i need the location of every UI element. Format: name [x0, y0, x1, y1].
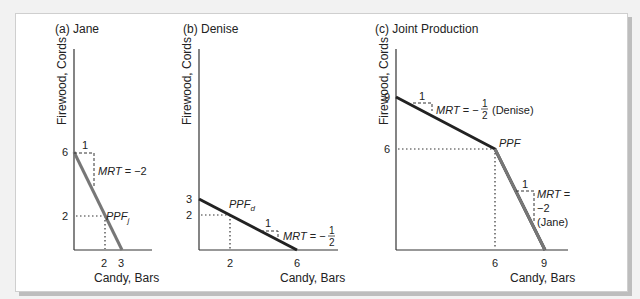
mrt-label: MRT = −2 — [98, 165, 147, 177]
x-axis-label: Candy, Bars — [510, 271, 575, 285]
y-tick: 3 — [186, 193, 192, 205]
panel-title: (c) Joint Production — [375, 22, 478, 36]
y-axis-label: Firewood, Cords — [180, 37, 194, 125]
ppf-line-denise — [396, 97, 545, 250]
panel-title: (b) Denise — [183, 22, 239, 36]
y-tick: 2 — [62, 210, 68, 222]
panel-joint: (c) Joint Production Firewood, Cords 1 M… — [375, 22, 575, 285]
mrt-numerator: 1 — [482, 98, 488, 109]
y-axis-label: Firewood, Cords — [55, 37, 69, 125]
panel-title: (a) Jane — [55, 22, 99, 36]
mrt-label-denise: MRT = − — [436, 104, 479, 116]
mrt-value-jane: −2 — [537, 202, 550, 214]
mrt-label-jane: MRT = — [537, 188, 570, 200]
y-tick: 6 — [384, 143, 390, 155]
mrt-numerator: 1 — [329, 225, 335, 236]
x-axis-label: Candy, Bars — [94, 271, 159, 285]
x-tick: 9 — [541, 257, 547, 269]
mrt-denominator: 2 — [482, 110, 488, 121]
mrt-denominator: 2 — [329, 237, 335, 248]
x-axis-label: Candy, Bars — [280, 271, 345, 285]
ppf-label: PPF — [499, 137, 522, 149]
x-tick: 6 — [492, 257, 498, 269]
run-label: 1 — [419, 90, 425, 102]
run-label: 1 — [265, 217, 271, 229]
y-tick: 9 — [384, 91, 390, 103]
y-tick: 2 — [186, 209, 192, 221]
x-tick: 3 — [118, 257, 124, 269]
x-tick: 2 — [227, 257, 233, 269]
denise-label: (Denise) — [492, 104, 534, 116]
ppf-label: PPFd — [229, 198, 255, 213]
x-tick: 2 — [101, 257, 107, 269]
x-tick: 6 — [294, 257, 300, 269]
panel-denise: (b) Denise Firewood, Cords 1 MRT = − 1 2… — [180, 22, 345, 285]
run-label: 1 — [522, 178, 528, 190]
run-label: 1 — [82, 139, 88, 151]
panel-jane: (a) Jane Firewood, Cords 1 MRT = −2 PPFj… — [55, 22, 159, 285]
ppf-figure: (a) Jane Firewood, Cords 1 MRT = −2 PPFj… — [0, 0, 640, 299]
y-axis-label: Firewood, Cords — [377, 37, 391, 125]
mrt-label: MRT = − — [283, 230, 326, 242]
y-tick: 6 — [62, 146, 68, 158]
jane-label: (Jane) — [537, 216, 568, 228]
